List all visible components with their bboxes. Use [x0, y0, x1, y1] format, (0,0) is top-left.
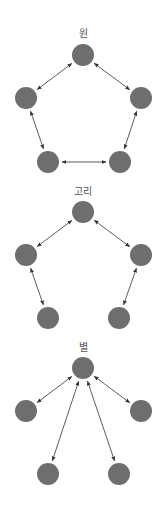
topology-label-ring: 고리 [74, 186, 92, 197]
bidirectional-link [94, 220, 130, 246]
topology-label-circle: 원 [79, 28, 88, 39]
network-node [15, 400, 37, 422]
topology-label-star: 별 [79, 342, 88, 353]
bidirectional-link [31, 268, 44, 305]
network-node [130, 400, 152, 422]
bidirectional-link [94, 63, 130, 89]
network-node [109, 151, 131, 173]
circle-topology: 원 [15, 28, 152, 173]
network-node [130, 87, 152, 109]
bidirectional-link [124, 268, 137, 305]
bidirectional-link [37, 63, 72, 89]
bidirectional-link [94, 376, 130, 402]
bidirectional-link [88, 381, 115, 460]
network-node [15, 244, 37, 266]
network-node [37, 463, 59, 485]
network-node [108, 307, 130, 329]
bidirectional-link [124, 111, 136, 148]
network-node [72, 357, 94, 379]
network-node [15, 87, 37, 109]
network-node [72, 44, 94, 66]
ring-topology: 고리 [15, 186, 152, 329]
bidirectional-link [37, 220, 72, 246]
network-node [37, 307, 59, 329]
bidirectional-link [37, 376, 72, 402]
bidirectional-link [31, 111, 44, 149]
network-node [108, 463, 130, 485]
bidirectional-link [52, 381, 78, 460]
star-topology: 별 [15, 342, 152, 485]
network-node [130, 244, 152, 266]
network-topology-diagram: 원 고리 별 [0, 0, 167, 511]
network-node [37, 151, 59, 173]
network-node [72, 201, 94, 223]
